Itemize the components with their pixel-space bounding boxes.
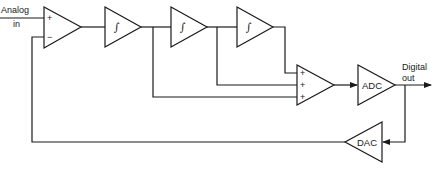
- integral-symbol: ∫: [180, 21, 186, 34]
- analog-in-label-line2: in: [13, 19, 20, 29]
- analog-in-label-line1: Analog: [1, 5, 29, 15]
- plus-sign: +: [300, 68, 305, 78]
- integrator-2-block: ∫: [171, 7, 207, 47]
- plus-sign: +: [300, 92, 305, 102]
- output-summer-block: + + +: [297, 65, 334, 105]
- input-summer-block: + −: [44, 7, 81, 48]
- sigma-delta-block-diagram: Analog in + − ∫ ∫ ∫ + + + AD: [0, 0, 442, 172]
- integrator-3-block: ∫: [237, 7, 273, 47]
- digital-out-label-line1: Digital: [402, 62, 427, 72]
- plus-sign: +: [300, 80, 305, 90]
- integrator-1-block: ∫: [105, 7, 141, 47]
- dac-block: DAC: [345, 122, 382, 162]
- wire-output-to-dac: [383, 85, 405, 142]
- minus-sign: −: [47, 32, 52, 42]
- integral-symbol: ∫: [246, 21, 252, 34]
- adc-block: ADC: [358, 65, 395, 105]
- adc-label: ADC: [362, 80, 382, 91]
- plus-sign: +: [47, 13, 52, 23]
- digital-out-label-line2: out: [402, 73, 415, 83]
- wire-int3-to-output-summer: [273, 27, 297, 73]
- integral-symbol: ∫: [114, 21, 120, 34]
- dac-label: DAC: [357, 137, 377, 148]
